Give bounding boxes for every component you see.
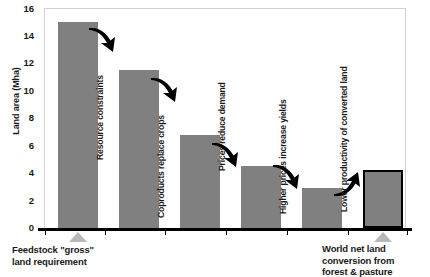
y-tick-10: 10 bbox=[12, 86, 34, 96]
y-tick-16: 16 bbox=[12, 4, 34, 14]
callout-right-line-3: forest & pasture bbox=[322, 266, 430, 277]
y-tick-14: 14 bbox=[12, 31, 34, 41]
y-tick-4: 4 bbox=[12, 168, 34, 178]
y-tick-12: 12 bbox=[12, 58, 34, 68]
callout-left-line-2: land requirement bbox=[12, 256, 142, 268]
down-right-arrow-icon-2 bbox=[150, 78, 178, 104]
y-tick-8: 8 bbox=[12, 113, 34, 123]
callout-left-line-1: Feedstock "gross" bbox=[12, 244, 142, 256]
annotation-coproducts-replace-crops: Coproducts replace crops bbox=[156, 115, 166, 218]
down-right-arrow-icon-1 bbox=[88, 28, 116, 54]
callout-pointer-left bbox=[69, 232, 87, 242]
annotation-higher-prices-increase-yields: Higher prices increase yields bbox=[278, 99, 288, 214]
x-tick-5 bbox=[348, 231, 349, 235]
x-tick-6 bbox=[407, 231, 408, 235]
callout-feedstock-gross-land-requirement: Feedstock "gross" land requirement bbox=[12, 244, 142, 267]
annotation-resource-constraints: Resource constraints bbox=[95, 75, 105, 160]
down-right-arrow-icon-3 bbox=[211, 143, 239, 169]
callout-right-line-1: World net land bbox=[322, 243, 430, 255]
x-tick-2 bbox=[165, 231, 166, 235]
callout-world-net-land-conversion: World net land conversion from forest & … bbox=[322, 243, 430, 277]
down-right-arrow-icon-4 bbox=[272, 165, 300, 191]
x-tick-0 bbox=[45, 231, 46, 235]
y-tick-0: 0 bbox=[12, 223, 34, 233]
x-tick-3 bbox=[226, 231, 227, 235]
bar-chart-figure: Land area (Mha) 16 14 12 10 8 6 4 2 0 Re… bbox=[0, 0, 430, 277]
x-tick-4 bbox=[287, 231, 288, 235]
y-tick-6: 6 bbox=[12, 141, 34, 151]
x-axis-baseline bbox=[38, 228, 412, 231]
callout-right-line-2: conversion from bbox=[322, 255, 430, 267]
x-tick-1 bbox=[105, 231, 106, 235]
callout-pointer-right bbox=[374, 232, 392, 242]
bar-world-net-land-conversion bbox=[363, 170, 403, 228]
up-right-arrow-icon-5 bbox=[333, 170, 361, 196]
y-tick-2: 2 bbox=[12, 196, 34, 206]
